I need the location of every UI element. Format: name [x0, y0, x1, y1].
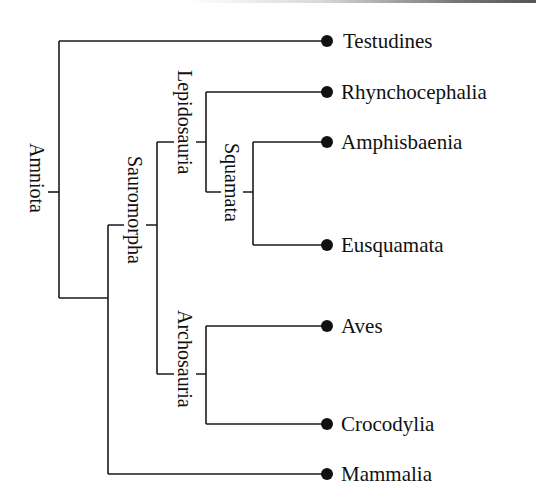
crocodylia-dot-icon: [321, 418, 333, 430]
leaf-label-mammalia: Mammalia: [341, 462, 432, 486]
leaf-label-eusquamata: Eusquamata: [341, 233, 444, 257]
cladogram-branches: [0, 0, 536, 503]
amphisbaenia-dot-icon: [321, 136, 333, 148]
clade-label-lepidosauria: Lepidosauria: [174, 67, 196, 177]
clade-label-amniota: Amniota: [26, 140, 48, 216]
rhynchocephalia-dot-icon: [321, 86, 333, 98]
clade-label-sauromorpha: Sauromorpha: [124, 153, 146, 267]
leaf-label-rhynchocephalia: Rhynchocephalia: [341, 80, 487, 104]
clade-label-archosauria: Archosauria: [174, 307, 196, 411]
clade-label-squamata: Squamata: [221, 140, 243, 225]
eusquamata-dot-icon: [321, 239, 333, 251]
leaf-label-crocodylia: Crocodylia: [341, 412, 434, 436]
testudines-dot-icon: [321, 35, 333, 47]
mammalia-dot-icon: [321, 468, 333, 480]
leaf-label-aves: Aves: [341, 314, 383, 338]
aves-dot-icon: [321, 320, 333, 332]
leaf-label-amphisbaenia: Amphisbaenia: [341, 130, 462, 154]
leaf-label-testudines: Testudines: [343, 29, 433, 53]
